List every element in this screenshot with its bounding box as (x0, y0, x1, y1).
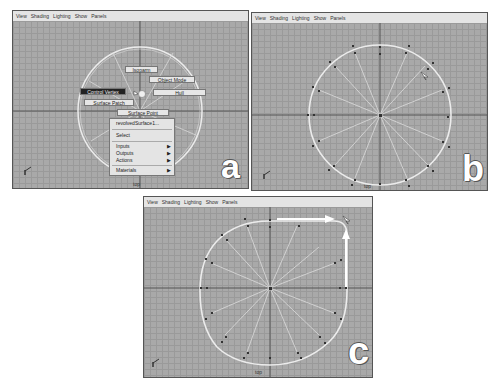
context-item-revolved-surface[interactable]: revolvedSurface1... (110, 119, 174, 128)
menu-lighting[interactable]: Lighting (53, 11, 71, 21)
marking-menu-control-vertex[interactable]: Control Vertex (80, 88, 126, 95)
nurbs-circle-cv-display (252, 23, 488, 191)
menu-view[interactable]: View (16, 11, 27, 21)
marking-menu-surface-patch[interactable]: Surface Patch (84, 99, 134, 106)
viewport-panel-b: View Shading Lighting Show Panels (251, 12, 488, 191)
axis-gizmo-icon (23, 165, 35, 177)
menu-panels[interactable]: Panels (91, 11, 106, 21)
context-item-outputs[interactable]: Outputs▶ (110, 150, 174, 157)
menu-lighting[interactable]: Lighting (292, 13, 310, 23)
viewport-panel-c: View Shading Lighting Show Panels (143, 196, 373, 378)
context-item-label: Outputs (116, 150, 134, 156)
step-letter-a: a (221, 149, 240, 183)
context-menu: revolvedSurface1... Select Inputs▶ Outpu… (109, 118, 175, 176)
submenu-arrow-icon: ▶ (167, 157, 171, 164)
menu-show[interactable]: Show (206, 197, 219, 207)
camera-label: top (133, 181, 140, 187)
context-item-label: Inputs (116, 143, 130, 149)
menu-view[interactable]: View (255, 13, 266, 23)
menu-lighting[interactable]: Lighting (184, 197, 202, 207)
viewport-top[interactable]: top Isoparm Object Mode Control Vertex H… (13, 21, 248, 188)
camera-label: top (255, 369, 262, 375)
step-letter-b: b (462, 151, 484, 187)
context-item-inputs[interactable]: Inputs▶ (110, 143, 174, 150)
viewport-panel-a: View Shading Lighting Show Panels (12, 10, 249, 189)
context-item-materials[interactable]: Materials▶ (110, 167, 174, 174)
menu-show[interactable]: Show (314, 13, 327, 23)
axis-gizmo-icon (151, 357, 163, 369)
menu-show[interactable]: Show (75, 11, 88, 21)
marking-menu-isoparm[interactable]: Isoparm (125, 66, 158, 73)
menu-shading[interactable]: Shading (162, 197, 180, 207)
nurbs-circle-edited (144, 207, 373, 378)
viewport-top[interactable]: top c (144, 207, 372, 377)
divider (112, 129, 172, 130)
menu-view[interactable]: View (147, 197, 158, 207)
drag-direction-arrows (277, 215, 350, 287)
menu-panels[interactable]: Panels (330, 13, 345, 23)
step-letter-c: c (348, 332, 369, 370)
submenu-arrow-icon: ▶ (167, 143, 171, 150)
submenu-arrow-icon: ▶ (167, 150, 171, 157)
context-item-label: Materials (116, 167, 136, 173)
divider (112, 165, 172, 166)
context-item-label: Actions (116, 157, 132, 163)
divider (112, 141, 172, 142)
axis-gizmo-icon (262, 169, 274, 181)
arrow-cursor-icon (133, 89, 147, 99)
menu-shading[interactable]: Shading (270, 13, 288, 23)
camera-label: top (364, 183, 371, 189)
marking-menu-object-mode[interactable]: Object Mode (149, 76, 195, 83)
marking-menu-surface-point[interactable]: Surface Point (117, 109, 169, 116)
context-item-actions[interactable]: Actions▶ (110, 157, 174, 164)
arrow-cursor-icon (342, 215, 352, 225)
submenu-arrow-icon: ▶ (167, 167, 171, 174)
context-item-select[interactable]: Select (110, 131, 174, 140)
menu-shading[interactable]: Shading (31, 11, 49, 21)
marking-menu-hull[interactable]: Hull (153, 89, 206, 96)
viewport-top[interactable]: top b (252, 23, 487, 190)
arrow-cursor-icon (420, 71, 430, 81)
menu-panels[interactable]: Panels (222, 197, 237, 207)
